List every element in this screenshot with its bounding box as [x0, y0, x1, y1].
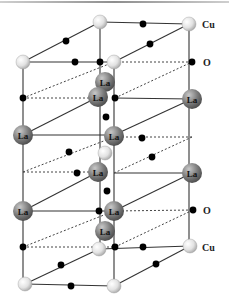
crystal-structure-figure: La La La La La La La La La La Cu O O Cu — [0, 0, 229, 307]
svg-text:La: La — [18, 207, 29, 217]
svg-text:La: La — [93, 168, 104, 178]
la-atom: La — [182, 89, 202, 109]
svg-text:La: La — [18, 131, 29, 141]
svg-text:La: La — [109, 132, 120, 142]
label-cu-top: Cu — [202, 19, 215, 30]
la-atom: La — [104, 126, 124, 146]
la-atom: La — [95, 221, 115, 241]
svg-text:La: La — [109, 207, 120, 217]
la-atom: La — [88, 87, 108, 107]
la-atom: La — [13, 201, 33, 221]
top-border — [0, 1, 229, 3]
svg-text:La: La — [93, 93, 104, 103]
svg-text:La: La — [187, 169, 198, 179]
label-cu-bottom: Cu — [202, 242, 215, 253]
label-o-top: O — [203, 57, 211, 68]
svg-text:La: La — [100, 227, 111, 237]
la-atom: La — [88, 162, 108, 182]
label-o-bottom: O — [203, 205, 211, 216]
svg-text:La: La — [100, 78, 111, 88]
unit-cell-diagram: La La La La La La La La La La Cu O O Cu — [0, 0, 229, 307]
svg-text:La: La — [187, 95, 198, 105]
la-atom: La — [13, 125, 33, 145]
cu-atoms — [16, 15, 197, 293]
la-atom: La — [182, 163, 202, 183]
la-atom: La — [104, 201, 124, 221]
